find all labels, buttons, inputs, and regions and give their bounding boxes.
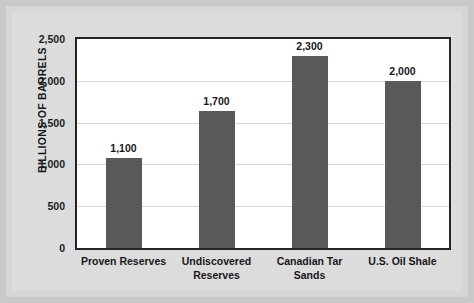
y-axis-tick-label: 1,500 (39, 117, 65, 129)
bar-value-label: 2,000 (389, 65, 415, 77)
x-axis-category-label-line: Undiscovered (170, 255, 263, 269)
y-axis-tick-labels: 05001,0001,5002,0002,500 (12, 37, 70, 250)
x-axis-category-label: Proven Reserves (77, 255, 170, 269)
y-axis-tick-label: 1,000 (39, 158, 65, 170)
bar-chart-panel: BILLIONS OF BARRELS 05001,0001,5002,0002… (12, 12, 462, 291)
bar[interactable] (199, 111, 235, 248)
bar-slot: 1,100 (77, 39, 170, 248)
y-axis-tick-label: 500 (47, 200, 65, 212)
bar-value-label: 1,700 (203, 95, 229, 107)
y-axis-tick-label: 0 (59, 242, 65, 254)
bar[interactable] (106, 158, 142, 248)
bar-slot: 2,300 (263, 39, 356, 248)
bar-slot: 2,000 (356, 39, 449, 248)
figure-root: BILLIONS OF BARRELS 05001,0001,5002,0002… (0, 0, 474, 303)
x-axis-category-label-line: Reserves (170, 269, 263, 283)
bars-layer: 1,1001,7002,3002,000 (77, 39, 449, 248)
bar-value-label: 1,100 (110, 142, 136, 154)
x-axis-category-labels: Proven ReservesUndiscoveredReservesCanad… (77, 255, 449, 291)
y-axis-tick-label: 2,000 (39, 75, 65, 87)
x-axis-category-label: Canadian TarSands (263, 255, 356, 282)
y-axis-tick-label: 2,500 (39, 33, 65, 45)
x-axis-category-label-line: U.S. Oil Shale (356, 255, 449, 269)
bar-value-label: 2,300 (296, 40, 322, 52)
x-axis-category-label-line: Sands (263, 269, 356, 283)
x-axis-category-label: UndiscoveredReserves (170, 255, 263, 282)
x-axis-category-label: U.S. Oil Shale (356, 255, 449, 269)
bar[interactable] (292, 56, 328, 248)
bar-slot: 1,700 (170, 39, 263, 248)
bar[interactable] (385, 81, 421, 248)
x-axis-category-label-line: Canadian Tar (263, 255, 356, 269)
x-axis-category-label-line: Proven Reserves (77, 255, 170, 269)
